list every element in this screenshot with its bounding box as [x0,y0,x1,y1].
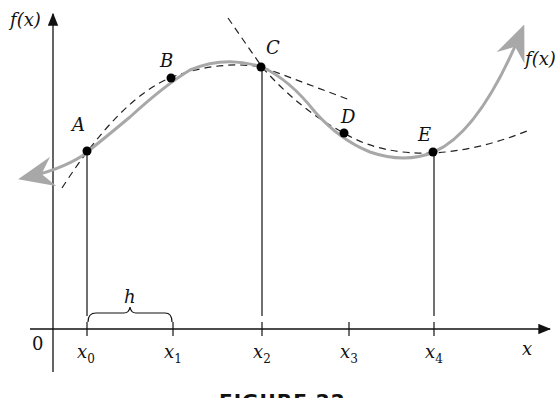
tick-x1: x1 [164,341,182,366]
simpson-rule-figure: A B C D E f(x) f(x) x 0 h x0 x1 x2 x3 x4… [0,0,555,398]
label-a: A [70,114,85,135]
tick-x3: x3 [340,341,358,366]
h-brace [88,307,172,322]
h-label: h [124,286,136,307]
tick-x2: x2 [253,341,271,366]
point-a [83,147,92,156]
y-axis-label: f(x) [8,9,41,30]
label-d: D [340,106,356,127]
tick-x0: x0 [77,341,95,366]
dashed-approximations [62,18,527,188]
origin-label: 0 [32,333,43,354]
x-axis-label: x [522,338,532,359]
curve-label: f(x) [523,48,555,69]
figure-caption: FIGURE 22 [219,389,346,398]
points [83,63,438,157]
point-c [257,63,266,72]
point-e [429,148,438,157]
point-d [340,129,349,138]
label-e: E [417,124,431,145]
f-curve-main [82,30,522,158]
tick-x4: x4 [425,341,443,366]
label-c: C [266,37,280,58]
label-b: B [159,50,173,71]
point-b [167,74,176,83]
